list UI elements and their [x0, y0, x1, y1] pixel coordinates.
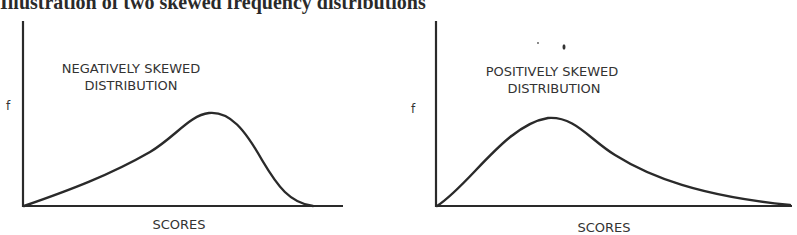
speck-mark	[537, 42, 539, 44]
panel-label-line2: DISTRIBUTION	[84, 78, 177, 93]
panel-label-line2: DISTRIBUTION	[507, 81, 600, 96]
speck-mark	[563, 44, 566, 50]
negative-skew-panel: NEGATIVELY SKEWED DISTRIBUTION f SCORES	[6, 21, 343, 232]
panel-label-line1: NEGATIVELY SKEWED	[62, 61, 200, 76]
y-axis-label: f	[6, 99, 11, 113]
distribution-curve	[437, 118, 790, 206]
distribution-curve	[24, 113, 313, 206]
x-axis-label: SCORES	[152, 217, 205, 232]
positive-skew-panel: POSITIVELY SKEWED DISTRIBUTION f SCORES	[411, 21, 792, 235]
y-axis-label: f	[411, 102, 416, 116]
x-axis-label: SCORES	[577, 220, 630, 235]
panel-label-line1: POSITIVELY SKEWED	[486, 64, 619, 79]
figure-canvas: NEGATIVELY SKEWED DISTRIBUTION f SCORES …	[0, 0, 797, 235]
